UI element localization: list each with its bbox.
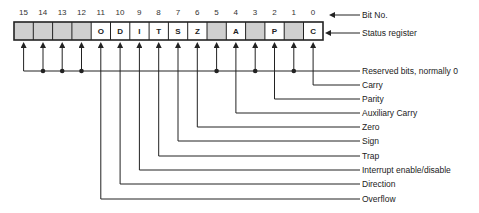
trap-label: Trap: [362, 151, 379, 161]
status-register-label: Status register: [362, 28, 417, 38]
zero-label: Zero: [362, 122, 379, 132]
interrupt-label: Interrupt enable/disable: [362, 165, 451, 175]
auxiliary-carry-label: Auxiliary Carry: [362, 108, 417, 118]
status-register-diagram: 15 14 13 12 11 10 9 8 7 6 5 4 3 2 1 0 O …: [0, 0, 479, 213]
direction-label: Direction: [362, 179, 396, 189]
reserved-bits-label: Reserved bits, normally 0: [362, 66, 458, 76]
sign-label: Sign: [362, 136, 379, 146]
parity-label: Parity: [362, 94, 384, 104]
overflow-label: Overflow: [362, 194, 396, 204]
carry-label: Carry: [362, 80, 383, 90]
bit-no-label: Bit No.: [362, 10, 388, 20]
